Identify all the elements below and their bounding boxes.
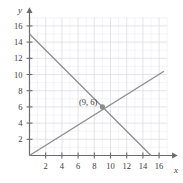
y-tick-label: 12 (14, 53, 23, 63)
y-tick-label: 2 (18, 134, 22, 144)
y-axis-label: y (17, 5, 22, 15)
x-tick-label: 16 (155, 161, 164, 171)
x-tick-label: 6 (76, 161, 80, 171)
chart-screenshot: 246810121416 246810121416 (9, 6) y x (0, 0, 183, 183)
x-tick-label: 2 (44, 161, 48, 171)
x-tick-label: 4 (60, 161, 65, 171)
y-tick-label: 14 (14, 37, 23, 47)
y-tick-label: 16 (14, 21, 23, 31)
x-tick-label: 10 (106, 161, 115, 171)
x-axis-label: x (173, 165, 178, 175)
x-tick-label: 8 (92, 161, 96, 171)
y-tick-label: 10 (14, 70, 23, 80)
y-tick-label: 6 (18, 102, 22, 112)
x-tick-label: 12 (122, 161, 131, 171)
y-tick-label: 8 (18, 86, 22, 96)
coordinate-plane-chart: 246810121416 246810121416 (9, 6) y x (0, 0, 183, 183)
intersection-dot (100, 104, 105, 109)
x-tick-label: 14 (139, 161, 148, 171)
intersection-point-label: (9, 6) (79, 97, 98, 107)
